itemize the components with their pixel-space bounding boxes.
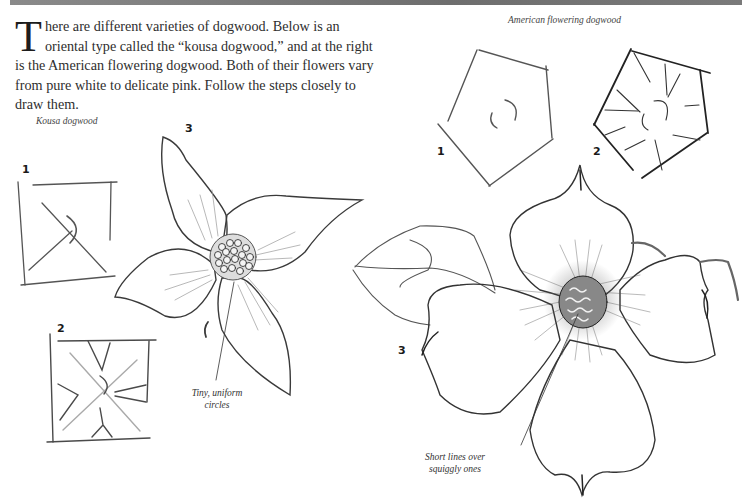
dogwood-illustration <box>0 0 750 500</box>
american-step-2-sketch <box>594 49 710 178</box>
kousa-step-2-sketch <box>47 334 156 442</box>
american-note-pointer <box>521 314 578 445</box>
american-stem <box>632 243 738 300</box>
american-center <box>559 276 607 328</box>
kousa-center <box>210 234 256 280</box>
american-step-1-sketch <box>438 50 553 186</box>
kousa-step-1-sketch <box>18 182 117 285</box>
american-leaf <box>353 226 495 325</box>
